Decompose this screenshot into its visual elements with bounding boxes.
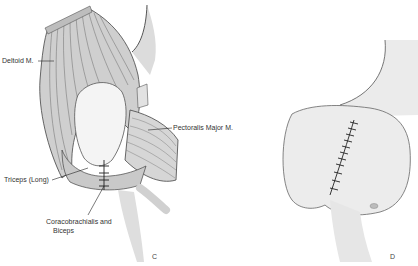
label-pectoralis-major: Pectoralis Major M.: [173, 124, 233, 132]
label-biceps: Biceps: [53, 227, 74, 235]
panel-letter-c: C: [152, 253, 157, 260]
label-deltoid: Deltoid M.: [2, 57, 34, 65]
anatomical-figure: Deltoid M. Pectoralis Major M. Triceps (…: [0, 0, 418, 266]
label-triceps-long: Triceps (Long): [4, 176, 49, 184]
panel-letter-d: D: [390, 253, 395, 260]
label-coracobrachialis: Coracobrachialis and: [46, 218, 112, 226]
